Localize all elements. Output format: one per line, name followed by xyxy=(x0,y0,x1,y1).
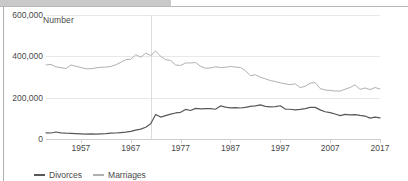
x-axis-tick-label: 1987 xyxy=(221,143,240,153)
legend-swatch-icon xyxy=(93,174,104,176)
legend-item-divorces[interactable]: Divorces xyxy=(34,170,82,180)
y-axis-tick-labels: 0200,000400,000600,000 xyxy=(0,15,43,139)
series-line-divorces xyxy=(46,105,380,134)
legend-item-marriages[interactable]: Marriages xyxy=(93,170,146,180)
x-axis-tick-label: 1957 xyxy=(71,143,90,153)
y-axis-tick-label: 400,000 xyxy=(12,51,43,61)
legend-label: Marriages xyxy=(108,170,146,180)
chart-legend: DivorcesMarriages xyxy=(34,168,146,181)
x-axis-tick-label: 2017 xyxy=(371,143,390,153)
x-axis-tick-labels: 1957196719771987199720072017 xyxy=(46,143,380,157)
legend-label: Divorces xyxy=(49,170,82,180)
plot-area xyxy=(46,15,380,139)
y-axis-tick-label: 200,000 xyxy=(12,93,43,103)
series-line-marriages xyxy=(46,51,380,91)
legend-swatch-icon xyxy=(34,174,45,176)
x-axis-tick-label: 2007 xyxy=(321,143,340,153)
series-lines xyxy=(46,15,380,139)
y-axis-tick-label: 600,000 xyxy=(12,10,43,20)
chart-screenshot: Number 0200,000400,000600,000 1957196719… xyxy=(0,0,408,181)
y-axis-tick-label: 0 xyxy=(38,134,43,144)
x-axis-tick-label: 1997 xyxy=(271,143,290,153)
x-axis-tick-label: 1967 xyxy=(121,143,140,153)
line-chart: Number 0200,000400,000600,000 1957196719… xyxy=(0,7,408,181)
x-axis-tick-label: 1977 xyxy=(171,143,190,153)
